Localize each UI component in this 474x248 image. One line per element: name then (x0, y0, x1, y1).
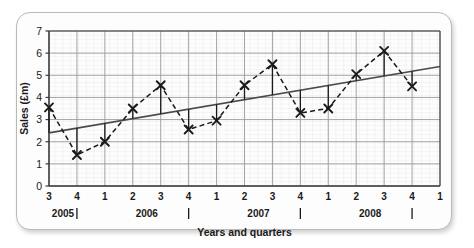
x-tick-label: 1 (214, 191, 220, 202)
x-year-label: 2008 (359, 208, 382, 219)
x-tick-label: 4 (298, 191, 304, 202)
x-tick-label: 4 (186, 191, 192, 202)
x-tick-label: 1 (102, 191, 108, 202)
x-year-label: 2005 (52, 208, 75, 219)
y-tick-label: 6 (36, 47, 42, 59)
x-tick-label: 4 (409, 191, 415, 202)
x-tick-label: 4 (74, 191, 80, 202)
x-tick-label: 3 (158, 191, 164, 202)
y-tick-label: 7 (36, 25, 42, 37)
y-tick-label: 4 (36, 91, 42, 103)
x-axis-title: Years and quarters (197, 226, 292, 238)
x-year-label: 2006 (136, 208, 159, 219)
x-tick-label: 2 (130, 191, 136, 202)
y-tick-label: 5 (36, 69, 42, 81)
x-tick-label: 3 (270, 191, 276, 202)
x-tick-label: 1 (437, 191, 443, 202)
x-tick-label: 1 (326, 191, 332, 202)
y-tick-label: 2 (36, 136, 42, 148)
y-axis-title: Sales (£m) (18, 82, 30, 135)
x-tick-label: 3 (46, 191, 52, 202)
x-year-label: 2007 (247, 208, 270, 219)
x-tick-label: 2 (353, 191, 359, 202)
chart-svg: 01234567Sales (£m)3412341234123412005200… (0, 0, 474, 248)
sales-trend-chart: 01234567Sales (£m)3412341234123412005200… (0, 0, 474, 248)
y-tick-label: 0 (36, 180, 42, 192)
y-tick-label: 1 (36, 158, 42, 170)
x-tick-label: 3 (381, 191, 387, 202)
y-tick-label: 3 (36, 113, 42, 125)
x-tick-label: 2 (242, 191, 248, 202)
